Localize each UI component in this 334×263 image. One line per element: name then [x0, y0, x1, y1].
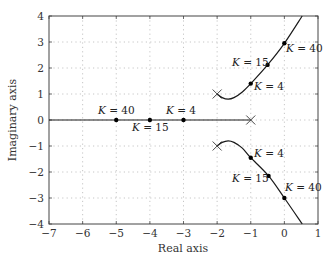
gain-marker-dot: [282, 196, 286, 200]
annot-lower-k15: K = 15: [231, 172, 269, 184]
x-tick-label: −4: [142, 227, 158, 239]
x-tick-label: −1: [243, 227, 258, 239]
annot-upper-k15: K = 15: [231, 56, 269, 68]
x-tick-label: −5: [109, 227, 124, 239]
gain-annotations: K = 40 K = 15 K = 4 K = 4 K = 15 K = 40 …: [97, 42, 323, 193]
x-tick-label: −2: [209, 227, 224, 239]
gain-marker-dot: [249, 156, 253, 160]
annot-upper-k4: K = 4: [253, 80, 284, 92]
gain-marker-dot: [114, 118, 118, 122]
y-axis-title: Imaginary axis: [6, 78, 19, 161]
y-tick-label: −3: [29, 192, 44, 204]
y-tick-label: 1: [37, 88, 44, 100]
annot-real-k40: K = 40: [97, 104, 135, 116]
annot-real-k15: K = 15: [131, 121, 169, 133]
x-tick-label: −3: [176, 227, 191, 239]
x-tick-label: 0: [281, 227, 288, 239]
y-tick-label: −1: [29, 140, 44, 152]
root-locus-chart: −7−6−5−4−3−2−101 −4−3−2−101234 Real axis…: [0, 0, 334, 263]
y-tick-labels: −4−3−2−101234: [29, 10, 45, 230]
x-tick-label: −6: [75, 227, 91, 239]
annot-lower-k40: K = 40: [284, 181, 322, 193]
annot-lower-k4: K = 4: [253, 147, 284, 159]
x-axis-title: Real axis: [158, 242, 209, 255]
y-tick-label: 4: [37, 10, 44, 22]
y-tick-label: 2: [37, 62, 44, 74]
y-tick-label: 0: [37, 114, 44, 126]
y-tick-label: −2: [29, 166, 44, 178]
annot-upper-k40: K = 40: [285, 42, 323, 54]
x-tick-label: 1: [315, 227, 322, 239]
y-tick-label: −4: [29, 218, 45, 230]
gain-marker-dot: [249, 81, 253, 85]
locus-branches: [49, 16, 302, 224]
gain-marker-dot: [181, 118, 185, 122]
x-tick-labels: −7−6−5−4−3−2−101: [41, 227, 321, 239]
annot-real-k4: K = 4: [165, 104, 196, 116]
y-tick-label: 3: [37, 36, 44, 48]
